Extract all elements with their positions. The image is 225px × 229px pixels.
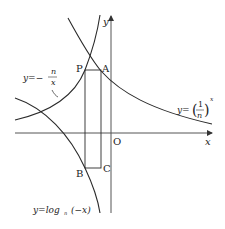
svg-text:): ) <box>204 102 209 118</box>
svg-text:y=−: y=− <box>22 73 43 83</box>
math-diagram: y x O P A B C y=− n x y= ( 1 n ) x y=log… <box>0 0 225 229</box>
svg-text:x: x <box>51 78 56 87</box>
label-pointer <box>52 90 58 97</box>
rectangle-pacb <box>85 70 101 168</box>
log-label: y=log n (−x) <box>32 205 91 216</box>
svg-text:y=: y= <box>176 105 190 115</box>
svg-text:y=log: y=log <box>32 205 60 215</box>
y-axis-label: y <box>102 16 109 27</box>
origin-label: O <box>113 136 121 147</box>
point-p-label: P <box>76 63 83 74</box>
svg-text:n: n <box>64 210 67 216</box>
hyperbola-label: y=− n x <box>22 67 57 87</box>
svg-text:1: 1 <box>198 100 203 109</box>
exp-curve <box>68 18 212 124</box>
x-axis-label: x <box>205 136 211 147</box>
point-a-label: A <box>101 63 110 74</box>
log-curve <box>15 98 100 213</box>
point-b-label: B <box>76 168 83 179</box>
point-c-label: C <box>103 163 111 174</box>
hyperbola-curve <box>15 15 100 120</box>
svg-text:n: n <box>197 111 202 120</box>
svg-text:(−x): (−x) <box>71 205 91 215</box>
svg-text:x: x <box>210 95 214 102</box>
svg-text:n: n <box>51 67 56 76</box>
